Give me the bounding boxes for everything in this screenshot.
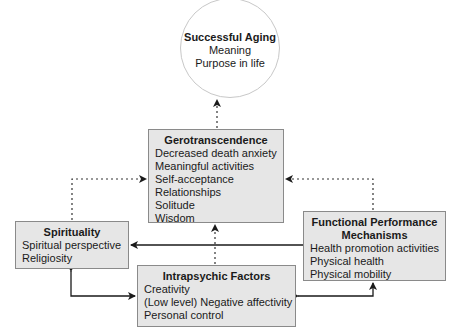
arrow-spirituality-intrapsychic xyxy=(71,271,135,296)
node-item: (Low level) Negative affectivity xyxy=(144,296,289,309)
node-title: Spirituality xyxy=(22,226,122,239)
node-title: Gerotranscendence xyxy=(155,134,277,147)
node-item: Decreased death anxiety xyxy=(155,147,277,160)
node-item: Solitude xyxy=(155,199,277,212)
node-title: Functional Performance xyxy=(310,216,439,229)
intrapsychic-factors-node: Intrapsychic Factors Creativity (Low lev… xyxy=(137,265,296,327)
node-item: Meaning xyxy=(209,44,251,57)
gerotranscendence-node: Gerotranscendence Decreased death anxiet… xyxy=(148,129,284,223)
functional-performance-node: Functional Performance Mechanisms Health… xyxy=(303,211,446,281)
node-item: Physical health xyxy=(310,255,439,268)
node-item: Self-acceptance xyxy=(155,173,277,186)
node-title: Successful Aging xyxy=(184,31,276,44)
arrow-intrapsychic-functional xyxy=(298,283,373,296)
arrow-functional-to-gero xyxy=(286,179,373,210)
node-title: Intrapsychic Factors xyxy=(144,270,289,283)
node-item: Meaningful activities xyxy=(155,160,277,173)
node-item: Physical mobility xyxy=(310,268,439,281)
node-item: Religiosity xyxy=(22,252,122,265)
node-item: Relationships xyxy=(155,186,277,199)
spirituality-node: Spirituality Spiritual perspective Relig… xyxy=(15,221,129,269)
node-item: Wisdom xyxy=(155,212,277,225)
arrow-spirituality-to-gero xyxy=(72,179,146,220)
node-title-line2: Mechanisms xyxy=(310,229,439,242)
node-item: Purpose in life xyxy=(195,57,265,70)
node-item: Health promotion activities xyxy=(310,242,439,255)
node-item: Creativity xyxy=(144,283,289,296)
node-item: Personal control xyxy=(144,309,289,322)
successful-aging-node: Successful Aging Meaning Purpose in life xyxy=(180,0,280,98)
node-item: Spiritual perspective xyxy=(22,239,122,252)
